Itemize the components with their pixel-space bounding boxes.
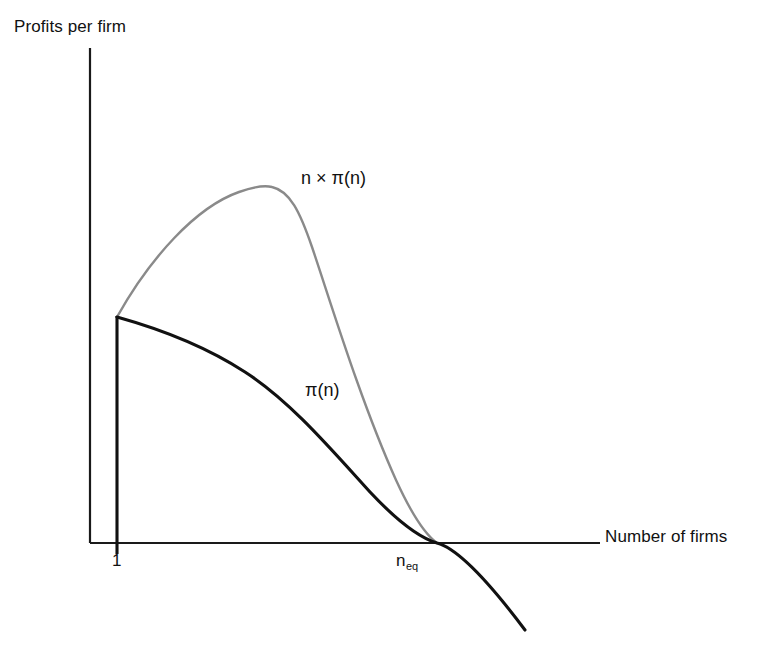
x-tick-label-one: 1 xyxy=(112,552,121,569)
x-tick-label-n-eq: neq xyxy=(396,552,418,569)
total-profit-curve xyxy=(117,186,437,543)
per-firm-profit-curve xyxy=(117,317,525,630)
per-firm-profit-curve-label: π(n) xyxy=(305,381,339,399)
y-axis-title: Profits per firm xyxy=(14,18,126,35)
x-tick-label-n-eq-subscript: eq xyxy=(406,560,418,572)
total-profit-curve-label: n × π(n) xyxy=(301,169,366,187)
x-axis-title: Number of firms xyxy=(605,528,727,545)
chart-figure: Profits per firm Number of firms n × π(n… xyxy=(0,0,768,649)
x-tick-label-n-eq-base: n xyxy=(396,551,405,570)
